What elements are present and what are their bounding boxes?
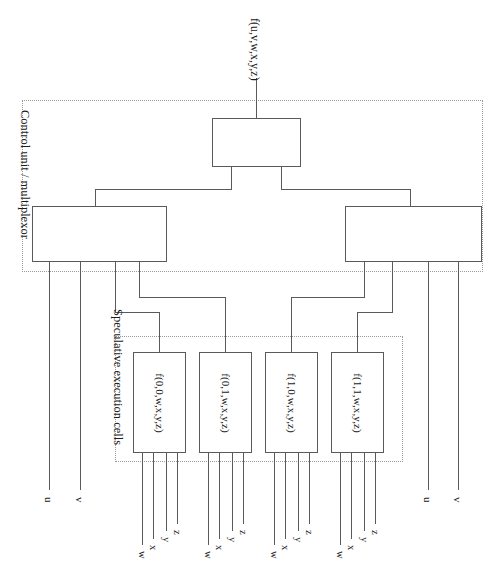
port-label-left-u: u xyxy=(43,497,55,503)
bus-letter-cell3-w: w xyxy=(335,551,346,559)
wire-left-to-cell-2 xyxy=(140,262,226,352)
bus-letter-cell3-z: z xyxy=(370,530,381,535)
label-function-output: f(u,v,w,x,y,z) xyxy=(247,18,262,81)
bus-letter-cell0-w: w xyxy=(137,551,148,559)
block-left-multiplexor[interactable] xyxy=(32,206,167,262)
cell-box-3[interactable]: f(1,1,w,x,y,z) xyxy=(331,352,384,453)
port-label-right-u: u xyxy=(422,497,434,503)
bus-letter-cell2-x: x xyxy=(280,545,291,550)
wire-right-to-cell-4 xyxy=(358,262,393,352)
port-label-left-v: v xyxy=(74,497,86,503)
cell-label-2: f(1,0,w,x,y,z) xyxy=(286,373,298,433)
bus-letter-cell1-z: z xyxy=(238,530,249,535)
bus-letter-cell0-y: y xyxy=(161,537,172,542)
wire-layer xyxy=(0,0,493,573)
cell-label-3: f(1,1,w,x,y,z) xyxy=(352,373,364,433)
cell-box-2[interactable]: f(1,0,w,x,y,z) xyxy=(265,352,318,453)
cell-label-1: f(0,1,w,x,y,z) xyxy=(220,373,232,433)
wire-top-to-right-mux xyxy=(282,167,411,206)
port-label-right-v: v xyxy=(452,497,464,503)
label-speculative-cells: Speculative execution cells xyxy=(110,309,125,445)
wire-top-to-left-mux xyxy=(96,167,232,206)
wire-right-to-cell-3 xyxy=(292,262,365,352)
bus-letter-cell1-x: x xyxy=(214,545,225,550)
bus-letter-cell1-w: w xyxy=(203,551,214,559)
block-right-multiplexor[interactable] xyxy=(345,206,482,262)
cell-box-1[interactable]: f(0,1,w,x,y,z) xyxy=(199,352,252,453)
bus-letter-cell0-z: z xyxy=(172,530,183,535)
bus-letter-cell2-y: y xyxy=(293,537,304,542)
cell-label-0: f(0,0,w,x,y,z) xyxy=(154,373,166,433)
bus-letter-cell3-y: y xyxy=(359,537,370,542)
bus-letter-cell1-y: y xyxy=(227,537,238,542)
block-top-multiplexor[interactable] xyxy=(212,118,301,167)
bus-letter-cell2-z: z xyxy=(304,530,315,535)
bus-letter-cell3-x: x xyxy=(346,545,357,550)
cell-box-0[interactable]: f(0,0,w,x,y,z) xyxy=(133,352,186,453)
label-control-unit: Control unit / multiplexor xyxy=(17,110,32,239)
bus-letter-cell0-x: x xyxy=(148,545,159,550)
diagram-canvas: f(0,0,w,x,y,z) f(0,1,w,x,y,z) f(1,0,w,x,… xyxy=(0,0,493,573)
bus-letter-cell2-w: w xyxy=(269,551,280,559)
